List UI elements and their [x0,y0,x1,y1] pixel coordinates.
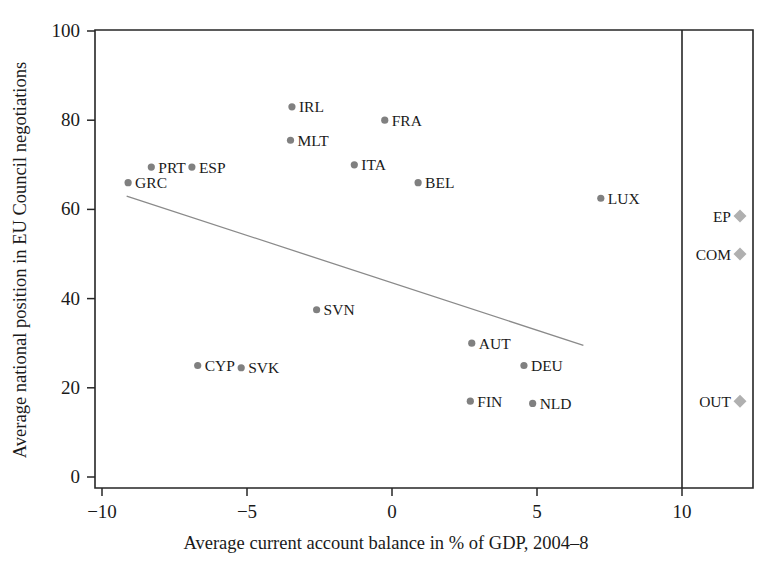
y-tick-label: 100 [52,20,81,41]
y-tick-label: 60 [61,198,80,219]
point-marker [468,340,475,347]
institution-label: COM [696,246,732,263]
point-label: PRT [158,159,186,176]
point-marker [313,306,320,313]
y-tick-label: 0 [71,466,81,487]
point-label: DEU [531,357,563,374]
point-marker [520,362,527,369]
x-tick-label: −5 [237,501,257,522]
institution-label: OUT [699,393,731,410]
point-label: NLD [540,395,572,412]
point-label: LUX [608,190,640,207]
point-label: IRL [299,98,324,115]
point-label: ESP [199,159,226,176]
x-tick-label: 10 [673,501,692,522]
point-marker [415,179,422,186]
point-marker [125,179,132,186]
y-tick-label: 40 [61,288,80,309]
point-marker [188,163,195,170]
x-tick-label: −10 [87,501,117,522]
y-axis-title: Average national position in EU Council … [10,62,30,458]
point-marker [351,161,358,168]
y-tick-label: 80 [61,109,80,130]
institution-label: EP [713,208,731,225]
point-marker [381,117,388,124]
point-label: BEL [425,174,454,191]
point-label: FRA [392,112,423,129]
point-marker [597,195,604,202]
point-label: SVN [324,301,355,318]
point-label: CYP [205,357,235,374]
point-marker [148,163,155,170]
point-marker [238,364,245,371]
point-label: AUT [479,335,511,352]
point-label: SVK [248,359,280,376]
point-marker [467,398,474,405]
point-marker [288,103,295,110]
x-axis-title: Average current account balance in % of … [184,533,589,553]
point-label: ITA [361,156,386,173]
plot-canvas: −10−50510020406080100 GRCPRTESPCYPSVKIRL… [0,0,771,574]
x-tick-label: 5 [532,501,542,522]
point-label: FIN [477,393,502,410]
point-marker [194,362,201,369]
y-tick-label: 20 [61,377,80,398]
point-marker [287,137,294,144]
scatter-plot-figure: −10−50510020406080100 GRCPRTESPCYPSVKIRL… [0,0,771,574]
point-label: GRC [135,174,167,191]
point-label: MLT [298,132,330,149]
x-tick-label: 0 [387,501,397,522]
point-marker [529,400,536,407]
